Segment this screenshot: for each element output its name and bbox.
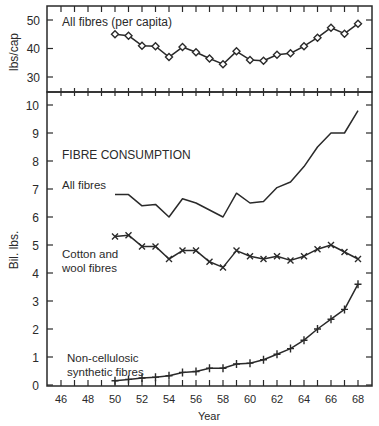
x-tick-label: 66 [325, 393, 337, 405]
x-axis-label: Year [198, 410, 221, 422]
chart-canvas: 4648505254565860626466683040500123456789… [0, 0, 379, 426]
x-marker [234, 248, 240, 254]
plus-marker [233, 360, 240, 368]
bottom-panel-frame [47, 92, 372, 386]
x-marker [220, 264, 226, 270]
plus-marker [274, 350, 281, 358]
x-tick-label: 64 [298, 393, 310, 405]
y-tick-label: 5 [32, 239, 39, 253]
y-tick-label: 2 [32, 323, 39, 337]
diamond-marker [274, 51, 281, 58]
plus-marker [328, 315, 335, 323]
y-tick-label: 0 [32, 379, 39, 393]
plus-marker [206, 364, 213, 372]
y-tick-label: 50 [27, 14, 41, 28]
series [112, 20, 362, 385]
plus-marker [247, 359, 254, 367]
top-panel-title: All fibres (per capita) [62, 15, 172, 29]
diamond-marker [206, 55, 213, 62]
diamond-marker [112, 31, 119, 38]
x-tick-label: 46 [55, 393, 67, 405]
y-tick-label: 4 [32, 267, 39, 281]
y-tick-label: 30 [27, 71, 41, 85]
plus-marker [355, 280, 362, 288]
plus-marker [179, 368, 186, 376]
all-fibres-line [115, 111, 358, 217]
x-tick-label: 48 [82, 393, 94, 405]
label-cotton-wool-2: wool fibres [61, 262, 117, 274]
bottom-panel-title: FIBRE CONSUMPTION [62, 148, 191, 162]
y-tick-label: 7 [32, 183, 39, 197]
plot-frame [47, 6, 372, 386]
plus-marker [152, 373, 159, 381]
diamond-marker [260, 57, 267, 64]
x-tick-label: 58 [217, 393, 229, 405]
plus-marker [112, 377, 119, 385]
top-y-axis-label: lbs/cap [7, 33, 21, 71]
x-tick-label: 62 [271, 393, 283, 405]
y-tick-label: 3 [32, 295, 39, 309]
x-marker [355, 256, 361, 262]
label-all-fibres: All fibres [62, 179, 106, 191]
plus-marker [193, 368, 200, 376]
y-tick-label: 9 [32, 127, 39, 141]
y-tick-label: 6 [32, 211, 39, 225]
label-cotton-wool-1: Cotton and [62, 248, 118, 260]
x-tick-label: 52 [136, 393, 148, 405]
axes: 4648505254565860626466683040500123456789… [26, 6, 372, 405]
x-tick-label: 50 [109, 393, 121, 405]
fibre-consumption-chart: 4648505254565860626466683040500123456789… [0, 0, 379, 426]
plus-marker [166, 372, 173, 380]
y-tick-label: 10 [26, 99, 40, 113]
x-tick-label: 60 [244, 393, 256, 405]
y-tick-label: 1 [32, 351, 39, 365]
y-tick-label: 40 [27, 42, 41, 56]
x-marker [207, 259, 213, 265]
x-marker [342, 249, 348, 255]
diamond-marker [193, 49, 200, 56]
label-synthetic-1: Non-cellulosic [67, 352, 139, 364]
x-tick-label: 54 [163, 393, 175, 405]
per-capita-line [115, 24, 358, 64]
plus-marker [341, 305, 348, 313]
x-marker [166, 256, 172, 262]
diamond-marker [247, 56, 254, 63]
bottom-y-axis-label: Bil. lbs. [7, 231, 21, 270]
x-tick-label: 56 [190, 393, 202, 405]
y-tick-label: 8 [32, 155, 39, 169]
x-tick-label: 68 [352, 393, 364, 405]
plus-marker [260, 356, 267, 364]
diamond-marker [301, 43, 308, 50]
label-synthetic-2: synthetic fibres [67, 366, 144, 378]
plus-marker [220, 364, 227, 372]
plus-marker [287, 345, 294, 353]
diamond-marker [287, 50, 294, 57]
